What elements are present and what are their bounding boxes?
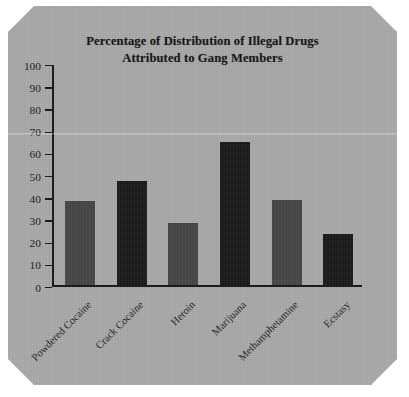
bar [65, 201, 95, 285]
x-axis-label: Crack Cocaine [93, 299, 145, 351]
bar [168, 223, 198, 285]
bar [117, 181, 147, 285]
plot-area: 1009080706050403020100 Powdered CocaineC… [52, 65, 362, 287]
y-axis-tick: 60 [45, 154, 52, 155]
chart-title-line-1: Percentage of Distribution of Illegal Dr… [8, 33, 397, 50]
bar [323, 234, 353, 285]
y-axis-tick: 30 [45, 220, 52, 221]
y-axis-tick-label: 20 [30, 237, 41, 249]
x-axis-label: Marijuana [210, 299, 249, 338]
y-axis-tick-label: 80 [30, 104, 41, 116]
y-axis-line [52, 65, 54, 287]
y-axis-tick: 40 [45, 198, 52, 199]
y-axis-tick-label: 70 [30, 126, 41, 138]
chart-title: Percentage of Distribution of Illegal Dr… [8, 33, 397, 66]
y-axis-tick: 80 [45, 109, 52, 110]
x-axis-label: Powdered Cocaine [29, 299, 93, 363]
x-axis-label: Ecstasy [321, 299, 352, 330]
chart-card: Percentage of Distribution of Illegal Dr… [8, 6, 397, 385]
bar [220, 142, 250, 285]
y-axis-tick: 90 [45, 87, 52, 88]
y-axis-tick-label: 10 [30, 259, 41, 271]
y-axis-tick-label: 60 [30, 148, 41, 160]
y-axis-tick-label: 0 [35, 282, 41, 294]
y-axis-tick-label: 30 [30, 215, 41, 227]
y-axis-tick: 50 [45, 176, 52, 177]
x-axis-line [52, 285, 362, 287]
x-axis-label: Heroin [168, 299, 197, 328]
y-axis-tick-label: 90 [30, 82, 41, 94]
y-axis-tick: 20 [45, 243, 52, 244]
y-axis-tick: 10 [45, 265, 52, 266]
bar [272, 200, 302, 285]
chart-title-line-2: Attributed to Gang Members [8, 50, 397, 67]
y-axis-tick-label: 40 [30, 193, 41, 205]
y-axis-tick: 0 [45, 287, 52, 288]
y-axis-tick-label: 50 [30, 171, 41, 183]
y-axis-tick: 70 [45, 132, 52, 133]
